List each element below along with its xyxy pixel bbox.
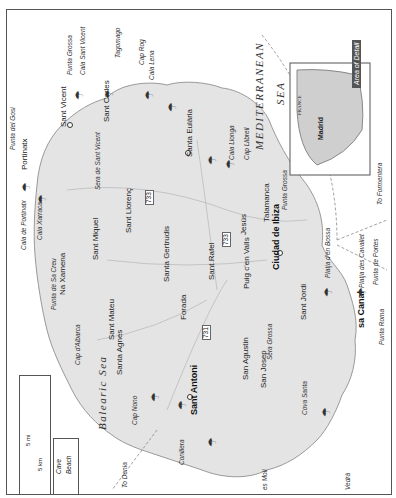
- mediterranean-label: MEDITERRANEAN: [254, 42, 265, 150]
- sant-llorenc-label: Sant Llorenç: [125, 188, 133, 233]
- beach-icon: ☂: [36, 194, 49, 204]
- ciudad-label: Ciudad de Ibiza: [272, 204, 281, 270]
- sera-grossa-label: Sera Grossa: [267, 324, 274, 361]
- beach-icon: ☂: [149, 392, 162, 402]
- platja-cavallet-label: Platja des Cavallet: [359, 234, 366, 288]
- madrid-label: Madrid: [317, 117, 324, 140]
- road-733-sign: 733: [222, 232, 231, 247]
- beach-icon: ☂: [356, 287, 369, 297]
- cala-lena-label: Cala Lena: [149, 50, 156, 80]
- to-formentera-label: To Formentera: [377, 163, 384, 205]
- cave-beach-legend: Cave Beach: [53, 438, 79, 495]
- punta-sa-creu-label: Punta de Sa Creu: [51, 258, 58, 310]
- puig-label: Puig c'en Valls: [243, 237, 251, 289]
- cap-nono-label: Cap Nono: [132, 396, 139, 425]
- beach-icon: ☂: [206, 155, 219, 165]
- santa-gertrudis-label: Santa Gertrudis: [163, 226, 171, 282]
- portinatx-label: Portinatx: [21, 138, 29, 170]
- area-of-detail-label: Area of Detail: [352, 40, 361, 88]
- san-agustin-label: San Agustin: [242, 337, 250, 380]
- sera-sant-vicent-label: Sera de Sant Vicent: [95, 132, 102, 190]
- sant-carles-label: Sant Carles: [103, 80, 111, 122]
- cala-sant-vicent-label: Cala Sant Vicent: [80, 27, 87, 75]
- beach-icon: ☂: [103, 89, 116, 99]
- sant-antoni-label: Sant Antoni: [190, 365, 199, 415]
- beach-icon: ☂: [176, 400, 189, 410]
- jesus-label: Jesús: [240, 214, 248, 235]
- punta-roma-label: Punta Roma: [379, 309, 386, 345]
- cala-portinatx-label: Cala de Portinatx: [21, 200, 28, 250]
- beach-icon: ☂: [206, 437, 219, 447]
- cap-llibrell-label: Cap Llibrell: [244, 127, 251, 160]
- sa-canal-label: sa Canal: [357, 291, 366, 328]
- scale-legend: 5 mi 5 km: [19, 375, 51, 495]
- tagomago-label: Tagomago: [115, 28, 122, 58]
- cap-rog-label: Cap Rog: [139, 39, 146, 65]
- beach-icon: ☂: [322, 287, 335, 297]
- talamanca-label: Talamanca: [263, 183, 271, 222]
- conillera-label: Conillera: [179, 439, 186, 465]
- beach-icon: ☂: [320, 407, 333, 417]
- cala-llonga-label: Cala Llonga: [229, 125, 236, 160]
- santa-agnes-label: Santa Agnes: [116, 330, 124, 375]
- beach-icon: ☂: [20, 182, 33, 192]
- to-denia-label: To Denia: [122, 462, 129, 488]
- beach-icon: ☂: [224, 159, 237, 169]
- france-label: FRANCE: [297, 95, 302, 115]
- beach-icon: ☂: [143, 90, 156, 100]
- es-moli-label: es Moli: [262, 469, 269, 490]
- punta-grossa-e-label: Punta Grossa: [282, 170, 289, 210]
- punta-grossa-label: Punta Grossa: [67, 35, 74, 75]
- sant-vicent-label: Sant Vicent: [60, 86, 68, 127]
- balearic-sea-label: Balearic Sea: [97, 355, 108, 430]
- santa-eularia-label: Santa Eulària: [186, 109, 194, 157]
- forada-label: Forada: [180, 295, 188, 320]
- na-xamena-label: Na Xamena: [59, 253, 67, 295]
- cala-xarraca-label: Cala Xarraca: [37, 202, 44, 240]
- map-frame: Ciudad de Ibiza Sant Antoni Sant Vicent …: [6, 9, 392, 495]
- beach-icon: ☂: [73, 90, 86, 100]
- sant-rafel-label: Sant Rafel: [208, 243, 216, 280]
- platja-bossa-label: Platja d'en Bossa: [325, 228, 332, 278]
- cap-albarca-label: Cap d'Albarca: [75, 324, 82, 365]
- sea-label: SEA: [275, 82, 286, 105]
- punta-portes-label: Punta de Portes: [373, 238, 380, 285]
- road-733-sign: 733: [145, 190, 154, 205]
- punta-gosi-label: Punta del Gosi: [10, 107, 17, 150]
- cova-santa-label: Cova Santa: [302, 381, 309, 415]
- sant-miquel-label: Sant Miquel: [92, 218, 100, 260]
- beach-icon: ☂: [166, 102, 179, 112]
- sant-jordi-label: Sant Jordi: [300, 284, 308, 320]
- vedra-label: Vedrà: [345, 473, 352, 490]
- road-731-sign: 731: [202, 325, 211, 340]
